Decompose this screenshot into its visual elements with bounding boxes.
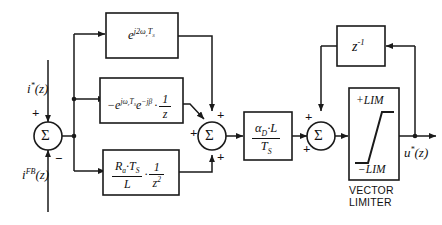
block2-minus: − <box>107 98 115 112</box>
control-arg: (z) <box>415 145 429 160</box>
gain-T: T <box>261 139 268 153</box>
gain-den: TS <box>252 139 280 155</box>
block2-frac-den: z <box>159 107 171 120</box>
block2-expression: −ejωrTSe−jβ·1z <box>107 93 171 120</box>
block3-expression: Ra·TSL·1z2 <box>112 160 164 190</box>
input-summer-plus-sign: + <box>32 106 39 119</box>
input-summer-glyph: Σ <box>41 128 50 143</box>
limiter-lower-limit-label: −LIM <box>358 164 386 176</box>
block1-exp-T-sub: S <box>152 33 155 38</box>
feedback-sup: FB <box>26 167 36 176</box>
wire-block3-to-middle-sum <box>179 155 212 172</box>
output-summer-glyph: Σ <box>314 128 323 143</box>
middle-summer-glyph: Σ <box>205 128 214 143</box>
input-label-reference: i*(z) <box>27 82 48 95</box>
block3-dot: · <box>142 167 149 181</box>
limiter-caption-line1: VECTOR <box>349 185 394 196</box>
block3-T-sub: S <box>136 166 140 175</box>
block3-frac2-den: z2 <box>149 175 163 189</box>
block3-fraction-2: 1z2 <box>149 161 163 189</box>
block2-exp1: jωrTS <box>120 97 136 106</box>
block3-frac1-num: Ra·TS <box>112 160 142 177</box>
block1-exponent: j2ωrTS <box>134 27 155 36</box>
gain-expression: αD·LTS <box>252 122 280 156</box>
block3-frac2-num: 1 <box>149 161 163 175</box>
block2-exp2: −jβ <box>141 97 152 106</box>
reference-arg: (z) <box>35 81 49 96</box>
block3-frac1-den: L <box>112 177 142 190</box>
middle-summer-bottom-plus: + <box>217 150 224 163</box>
block-diagram-canvas: i*(z) iFB(z) u*(z) Σ Σ Σ + − + + + + + e… <box>0 0 442 225</box>
bus-junction-dot-low <box>72 134 77 139</box>
limiter-upper-limit-label: +LIM <box>356 95 384 107</box>
block3-fraction-1: Ra·TSL <box>112 160 142 190</box>
gain-L: L <box>270 121 277 135</box>
block3-z-exp: 2 <box>157 175 161 184</box>
block1-expression: ej2ωrTS <box>128 28 155 41</box>
block3-T: T <box>129 159 136 173</box>
block2-fraction: 1z <box>159 93 171 120</box>
block2-frac-num: 1 <box>159 93 171 107</box>
gain-fraction: αD·LTS <box>252 122 280 156</box>
feedback-arg: (z) <box>35 167 49 182</box>
limiter-caption-line2: LIMITER <box>349 197 392 208</box>
unit-delay-expression: z-1 <box>352 38 365 54</box>
middle-summer-top-plus: + <box>217 108 224 121</box>
input-summer-minus-sign: − <box>55 152 62 165</box>
wire-block2-to-middle-sum <box>183 104 204 119</box>
unit-delay-exponent: -1 <box>357 37 364 47</box>
middle-summer-left-plus: + <box>190 126 197 139</box>
output-summer-left-plus: + <box>303 142 310 155</box>
gain-T-sub: S <box>268 147 272 156</box>
output-summer-top-plus: + <box>305 110 312 123</box>
gain-num: αD·L <box>252 122 280 139</box>
output-label-control: u*(z) <box>404 146 428 159</box>
input-label-feedback: iFB(z) <box>22 168 49 181</box>
block2-dot: · <box>152 98 159 112</box>
